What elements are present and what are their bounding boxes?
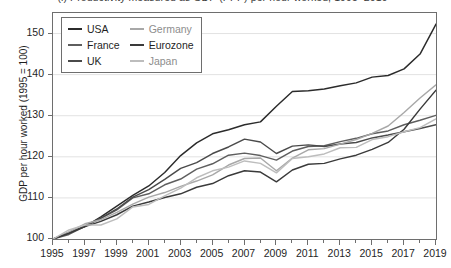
x-tick-mark-minor (228, 240, 229, 243)
y-axis-tick-labels: 100110120130140150 (14, 0, 44, 268)
legend-line-swatch (130, 28, 144, 30)
figure-title: (l) Productivity measured as GDP (PPP) p… (0, 0, 445, 3)
x-tick-mark-minor (100, 240, 101, 243)
x-tick-mark-minor (291, 240, 292, 243)
legend-item-japan[interactable]: Japan (130, 54, 194, 68)
x-tick-mark-minor (260, 240, 261, 243)
legend-item-france[interactable]: France (68, 38, 120, 52)
x-tick-mark-minor (355, 240, 356, 243)
x-tick-mark-major (52, 240, 53, 245)
x-tick-mark-minor (387, 240, 388, 243)
legend-item-usa[interactable]: USA (68, 22, 120, 36)
x-axis-tick-labels: 1995199719992001200320052007200920112013… (0, 245, 445, 265)
legend-label: France (87, 40, 120, 51)
x-tick-mark-minor (323, 240, 324, 243)
series-line-eurozone (53, 90, 436, 239)
x-tick-mark-major (307, 240, 308, 245)
series-line-france (53, 115, 436, 239)
x-tick-label: 2019 (415, 248, 451, 259)
legend-line-swatch (130, 44, 144, 46)
plot-area: USAGermanyFranceEurozoneUKJapan (52, 12, 437, 240)
x-tick-mark-major (275, 240, 276, 245)
series-line-germany (53, 85, 436, 239)
legend-label: USA (87, 24, 109, 35)
x-tick-mark-major (403, 240, 404, 245)
y-tick-label: 150 (16, 27, 44, 38)
x-tick-mark-major (84, 240, 85, 245)
legend-line-swatch (130, 60, 144, 62)
y-tick-label: 110 (16, 191, 44, 202)
legend-line-swatch (68, 60, 82, 62)
legend-item-germany[interactable]: Germany (130, 22, 194, 36)
x-tick-mark-minor (132, 240, 133, 243)
x-tick-mark-major (212, 240, 213, 245)
x-tick-mark-minor (68, 240, 69, 243)
x-tick-mark-minor (419, 240, 420, 243)
x-tick-mark-major (371, 240, 372, 245)
x-tick-mark-major (148, 240, 149, 245)
legend-label: Eurozone (149, 40, 194, 51)
x-tick-mark-major (244, 240, 245, 245)
x-tick-mark-major (339, 240, 340, 245)
legend-label: Japan (149, 56, 178, 67)
legend-item-eurozone[interactable]: Eurozone (130, 38, 194, 52)
y-tick-label: 100 (16, 232, 44, 243)
x-tick-mark-major (116, 240, 117, 245)
y-tick-label: 130 (16, 109, 44, 120)
y-tick-label: 140 (16, 68, 44, 79)
chart-legend: USAGermanyFranceEurozoneUKJapan (61, 17, 202, 73)
x-tick-mark-minor (196, 240, 197, 243)
x-tick-mark-major (435, 240, 436, 245)
legend-item-uk[interactable]: UK (68, 54, 120, 68)
x-tick-mark-minor (164, 240, 165, 243)
y-tick-label: 120 (16, 150, 44, 161)
legend-label: UK (87, 56, 102, 67)
x-tick-mark-major (180, 240, 181, 245)
legend-label: Germany (149, 24, 192, 35)
legend-line-swatch (68, 28, 82, 30)
legend-line-swatch (68, 44, 82, 46)
